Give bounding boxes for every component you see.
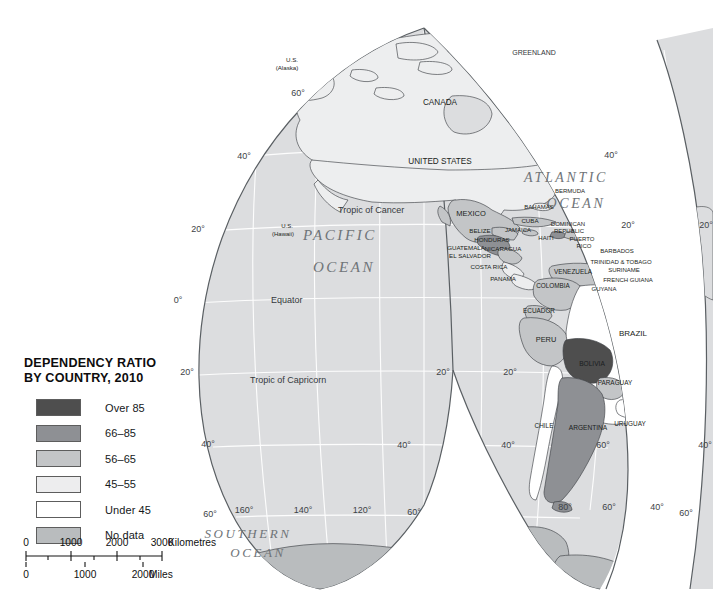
map-label: TRINIDAD & TOBAGO [590,259,651,265]
map-label: 60° [602,502,616,512]
map-label: 20° [436,367,450,377]
legend-swatch [36,450,81,467]
legend-item: 66–85 [24,422,224,445]
legend-label: Over 85 [105,402,145,414]
map-label: PACIFIC [302,227,377,243]
map-label: ECUADOR [523,307,555,314]
map-label: CANADA [423,98,458,107]
legend-item: Over 85 [24,396,224,419]
map-label: DOMINICAN [551,221,585,227]
legend-swatch [36,501,81,518]
map-label: REPUBLIC [554,228,585,234]
legend-label: 45–55 [105,478,136,490]
map-label: 20° [191,224,205,234]
legend-item: 56–65 [24,447,224,470]
scale-mi-tick: 1000 [74,569,97,580]
legend-label: 66–85 [105,427,136,439]
scale-km-tick: 0 [23,537,29,548]
map-label: ATLANTIC [523,170,608,185]
map-label: 40° [604,150,618,160]
map-label: 60° [679,508,693,518]
scale-mi-unit: Miles [149,569,173,580]
legend-item: Under 45 [24,498,224,521]
map-label: UNITED STATES [408,157,472,166]
legend-swatch [36,476,81,493]
legend-label: 56–65 [105,453,136,465]
map-label: BERMUDA [555,188,585,194]
map-label: MEXICO [456,209,486,218]
legend-swatch [36,399,81,416]
map-label: SURINAME [608,267,640,273]
map-label: Tropic of Capricorn [250,375,326,385]
map-label: PERU [536,335,557,344]
map-label: 120° [353,505,372,515]
map-label: U.S. [281,223,293,229]
map-label: Equator [271,295,303,305]
map-label: 60° [291,88,305,98]
map-label: 20° [699,220,713,230]
map-label: ARGENTINA [569,424,608,431]
map-label: OCEAN [230,545,286,560]
map-label: RICO [577,243,592,249]
map-label: U.S. [286,56,298,63]
scale-bar: 0100020003000 010002000 Kilometres Miles [12,534,222,584]
map-label: FRENCH GUIANA [603,277,653,283]
scale-mi-tick: 0 [23,569,29,580]
scale-km-ticks: 0100020003000 [23,537,173,548]
map-figure: PACIFICOCEANATLANTICOCEANSOUTHERNOCEAN 6… [0,0,713,599]
map-label: BAHAMAS [524,204,553,210]
legend-title-line1: DEPENDENCY RATIO [24,356,224,371]
map-label: 140° [294,505,313,515]
map-label: URUGUAY [614,420,646,427]
legend-title: DEPENDENCY RATIO BY COUNTRY, 2010 [24,356,224,385]
map-label: CUBA [521,217,539,224]
map-label: VENEZUELA [554,268,593,275]
legend-title-line2: BY COUNTRY, 2010 [24,371,224,386]
legend-rows: Over 8566–8556–6545–55Under 45No data [24,396,224,547]
legend-swatch [36,425,81,442]
map-legend: DEPENDENCY RATIO BY COUNTRY, 2010 Over 8… [24,356,224,549]
map-label: PANAMA [490,275,517,282]
map-label: 60° [407,507,421,517]
scale-mi-ticks: 010002000 [23,569,154,580]
map-label: BELIZE [469,227,490,234]
map-label: 160° [235,505,254,515]
map-label: 80° [558,502,572,512]
map-label: HAITI [538,235,554,241]
map-label: NICARAGUA [485,245,523,252]
map-label: 40° [237,151,251,161]
map-label: JAMAICA [505,227,531,233]
legend-item: 45–55 [24,473,224,496]
map-label: 40° [650,502,664,512]
map-label: OCEAN [547,196,606,211]
map-label: CHILE [535,422,554,429]
map-label: BARBADOS [600,248,633,254]
map-label: (Alaska) [276,64,299,71]
map-label: 0° [174,295,183,305]
map-label: OCEAN [313,259,375,275]
map-label: GUYANA [592,286,617,292]
scale-km-tick: 2000 [106,537,129,548]
map-label: 40° [501,440,515,450]
map-label: 20° [503,367,517,377]
scale-km-unit: Kilometres [168,537,216,548]
map-label: GUATEMALA [447,244,486,251]
map-label: Tropic of Cancer [338,205,404,215]
scale-km-tick: 1000 [60,537,83,548]
map-label: 20° [621,220,635,230]
map-label: PARAGUAY [598,379,633,386]
map-label: (Hawaii) [272,231,294,237]
map-label: PUERTO [570,236,595,242]
map-label: BOLIVIA [579,360,605,367]
map-label: 40° [698,440,712,450]
map-label: GREENLAND [512,49,556,56]
legend-label: Under 45 [105,504,151,516]
map-label: HONDURAS [474,236,509,243]
map-label: 60° [596,440,610,450]
map-label: BRAZIL [619,329,648,338]
map-label: COLOMBIA [536,282,570,289]
map-label: EL SALVADOR [449,252,491,259]
map-label: COSTA RICA [470,263,508,270]
map-label: 40° [397,440,411,450]
